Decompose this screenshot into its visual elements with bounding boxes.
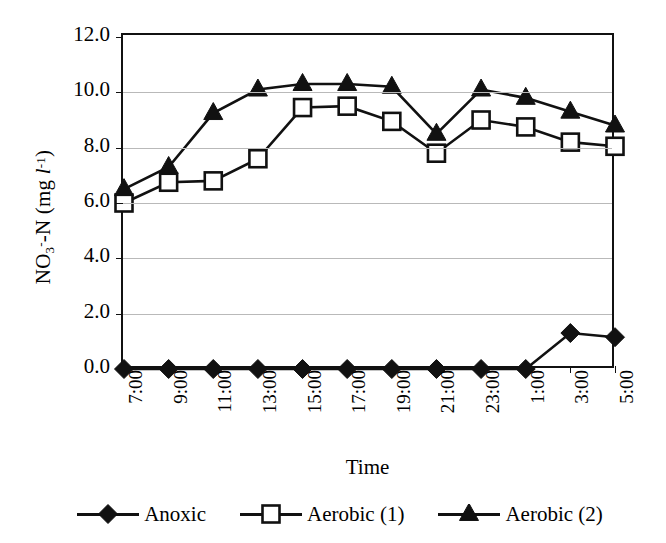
data-point-marker [517,118,534,135]
data-point-marker [383,113,400,130]
x-axis-tick-label: 13:00 [260,370,280,444]
x-axis-tick-label: 21:00 [438,370,458,444]
legend-item-aerobic-2[interactable]: Aerobic (2) [438,504,602,525]
data-point-marker [249,150,266,167]
series-anoxic [115,324,625,379]
x-axis-tick-label: 17:00 [349,370,369,444]
x-axis-tick-label: 19:00 [394,370,414,444]
x-axis-tick-label: 15:00 [305,370,325,444]
data-point-marker [606,328,625,347]
data-point-marker [205,172,222,189]
data-point-marker [294,99,311,116]
y-axis-tick-mark [116,92,123,93]
y-axis-tick-label: 6.0 [48,190,110,211]
x-axis-tick-label: 11:00 [215,370,235,444]
y-axis-tick-label: 0.0 [48,356,110,377]
data-point-marker [160,174,177,191]
series-line [124,106,615,203]
data-point-marker [382,76,401,93]
legend-label: Aerobic (1) [307,504,404,525]
x-axis-tick-label: 9:00 [171,370,191,444]
legend-marker-filled-triangle-icon [438,504,500,524]
gridline [123,203,612,204]
gridline [123,148,612,149]
legend-marker-glyph [77,504,139,524]
series-line [124,84,615,189]
x-axis-tick-label: 5:00 [617,370,637,444]
y-axis-tick-label: 8.0 [48,135,110,156]
data-point-marker [473,112,490,129]
y-axis-tick-mark [116,148,123,149]
legend-item-aerobic-1[interactable]: Aerobic (1) [240,504,404,525]
y-axis-tick-mark [116,314,123,315]
plot-area [121,33,614,368]
y-axis-tick-label: 4.0 [48,245,110,266]
y-axis-tick-label: 12.0 [48,24,110,45]
legend-marker-glyph [240,504,302,524]
legend-marker-glyph [438,504,500,524]
x-axis-tick-label: 23:00 [483,370,503,444]
legend-label: Aerobic (2) [505,504,602,525]
y-axis-tick-mark [116,258,123,259]
x-axis-tick-label: 3:00 [572,370,592,444]
legend-marker-filled-diamond-icon [77,504,139,524]
data-point-marker [293,73,312,90]
data-point-marker [472,79,491,96]
chart-legend: AnoxicAerobic (1)Aerobic (2) [60,497,620,531]
y-axis-tick-labels: 12.010.08.06.04.02.00.0 [44,0,110,400]
legend-marker-open-square-icon [240,504,302,524]
x-axis-tick-label: 7:00 [126,370,146,444]
y-axis-tick-mark [116,203,123,204]
y-axis-tick-mark [116,369,123,370]
series-line [124,333,615,369]
legend-item-anoxic[interactable]: Anoxic [77,504,206,525]
gridline [123,258,612,259]
gridline [123,314,612,315]
x-axis-tick-label: 1:00 [528,370,548,444]
y-axis-tick-label: 2.0 [48,301,110,322]
x-axis-title: Time [121,455,614,480]
data-point-marker [338,73,357,90]
data-point-marker [607,138,624,155]
series-aerobic-1 [116,98,624,212]
y-axis-tick-mark [116,37,123,38]
gridline [123,92,612,93]
x-axis-tick-labels: 7:009:0011:0013:0015:0017:0019:0021:0023… [121,372,614,446]
chart-figure: NO3--N (mg l-1) 12.010.08.06.04.02.00.0 … [0,0,666,543]
y-axis-tick-label: 10.0 [48,79,110,100]
legend-label: Anoxic [144,504,206,525]
data-point-marker [339,98,356,115]
